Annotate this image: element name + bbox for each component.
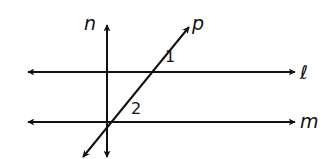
diagram-svg: ℓmnp12 [0, 0, 328, 159]
lines-layer [28, 25, 295, 157]
line-label-m: m [300, 110, 319, 132]
angle-label-1: 1 [165, 47, 175, 66]
line-label-n: n [84, 12, 96, 34]
line-label-p: p [191, 12, 204, 34]
line-label-l: ℓ [299, 61, 308, 83]
angle-label-2: 2 [131, 99, 141, 118]
geometry-diagram: ℓmnp12 [0, 0, 328, 159]
